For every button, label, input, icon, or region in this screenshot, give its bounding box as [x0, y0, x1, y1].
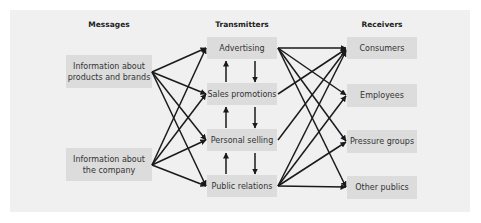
arrow-msg2-personal: [152, 140, 206, 165]
arrow-msg2-advertising: [152, 48, 206, 165]
arrow-pr-other: [278, 186, 346, 187]
arrow-pr-employees: [278, 96, 346, 186]
connection-arrows: [0, 0, 481, 223]
arrow-pr-pressure: [278, 142, 346, 186]
arrow-msg1-advertising: [152, 48, 206, 72]
